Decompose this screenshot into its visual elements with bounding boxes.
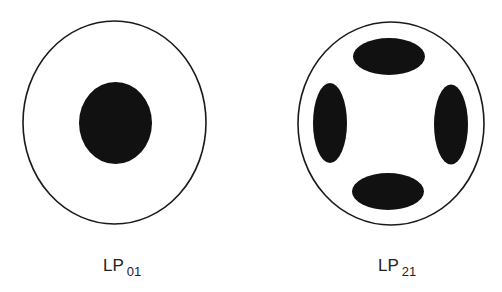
mode-diagram: LP01 LP21 (0, 0, 502, 292)
mode-label-lp01: LP01 (103, 256, 141, 279)
intensity-lobe-center (79, 82, 152, 164)
intensity-lobe-left (313, 83, 347, 163)
mode-lp01: LP01 (23, 21, 206, 279)
intensity-lobe-bottom (352, 173, 424, 210)
mode-lp21: LP21 (298, 22, 484, 279)
intensity-lobe-right (434, 85, 468, 165)
intensity-lobe-top (353, 38, 425, 75)
mode-label-lp21: LP21 (378, 256, 416, 279)
